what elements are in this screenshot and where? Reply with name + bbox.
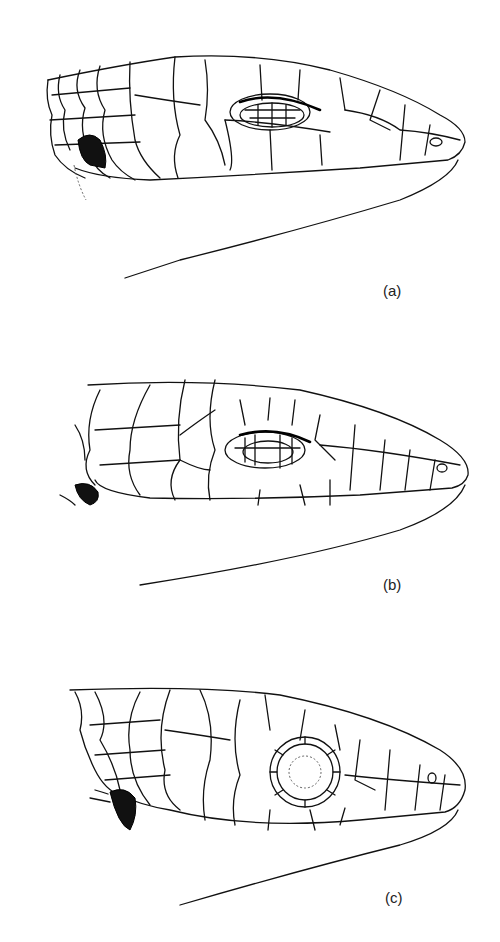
panel-label-b: (b) (383, 576, 401, 593)
panel-a: (a) (0, 60, 500, 310)
panel-label-a: (a) (383, 282, 401, 299)
panel-label-c: (c) (385, 889, 403, 906)
panel-c: (c) (0, 680, 500, 920)
lizard-head-drawing-a (0, 60, 500, 310)
lizard-head-drawing-c (0, 680, 500, 920)
panel-b: (b) (0, 380, 500, 610)
lizard-head-drawing-b (0, 380, 500, 610)
